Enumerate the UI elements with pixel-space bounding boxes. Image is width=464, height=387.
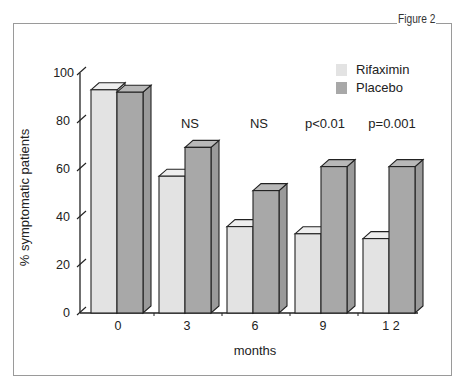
significance-annotation-12: p=0.001 <box>357 116 427 131</box>
bar-placebo <box>117 92 143 313</box>
legend-label-rifaximin: Rifaximin <box>356 62 409 77</box>
bar-rifaximin <box>227 227 253 313</box>
legend-swatch-placebo <box>336 82 347 94</box>
y-tick-20: 20 <box>40 258 70 272</box>
significance-annotation-6: NS <box>224 116 294 131</box>
x-axis-label: months <box>210 343 300 358</box>
x-tick-6: 6 <box>240 319 270 333</box>
y-tick-60: 60 <box>40 162 70 176</box>
legend-item-placebo: Placebo <box>336 80 403 95</box>
y-axis-label: % symptomatic patients <box>17 128 32 268</box>
bar-side <box>143 85 151 313</box>
bar-rifaximin <box>91 90 117 313</box>
y-tick-100: 100 <box>44 66 74 80</box>
y-tick-mark <box>77 163 86 171</box>
bar-placebo <box>389 167 415 313</box>
bar-side <box>347 160 355 313</box>
x-tick-0: 0 <box>103 319 133 333</box>
bar-side <box>211 140 219 313</box>
x-tick-3: 3 <box>172 319 202 333</box>
bar-rifaximin <box>295 234 321 313</box>
significance-annotation-3: NS <box>155 116 225 131</box>
bar-rifaximin <box>159 176 185 313</box>
legend-item-rifaximin: Rifaximin <box>336 62 409 77</box>
legend-swatch-rifaximin <box>336 64 347 76</box>
y-tick-mark <box>77 259 86 267</box>
y-tick-80: 80 <box>40 114 70 128</box>
bar-side <box>279 184 287 313</box>
significance-annotation-9: p<0.01 <box>290 116 360 131</box>
x-tick-12: 1 2 <box>376 319 406 333</box>
bar-placebo <box>321 167 347 313</box>
y-tick-40: 40 <box>40 210 70 224</box>
y-tick-mark <box>77 115 86 123</box>
legend-label-placebo: Placebo <box>356 80 403 95</box>
y-tick-mark <box>77 307 86 315</box>
y-tick-mark <box>77 211 86 219</box>
bar-side <box>415 160 423 313</box>
y-tick-0: 0 <box>40 306 70 320</box>
x-tick-9: 9 <box>308 319 338 333</box>
bar-rifaximin <box>363 239 389 313</box>
y-tick-mark <box>77 67 86 75</box>
bar-placebo <box>185 147 211 313</box>
bar-placebo <box>253 191 279 313</box>
